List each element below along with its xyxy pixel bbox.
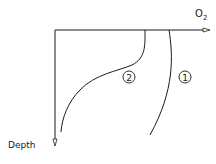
curve-1-label: 1 <box>182 73 188 83</box>
y-axis-arrow-icon <box>53 139 57 146</box>
x-axis-label: O2 <box>195 8 207 22</box>
oxygen-depth-diagram: 2 1 O2 Depth <box>0 0 216 164</box>
x-axis-arrow-icon <box>203 28 210 32</box>
curve-2 <box>61 30 145 132</box>
curve-2-label: 2 <box>126 73 132 83</box>
curve-1 <box>150 30 171 135</box>
y-axis-label: Depth <box>8 140 35 150</box>
